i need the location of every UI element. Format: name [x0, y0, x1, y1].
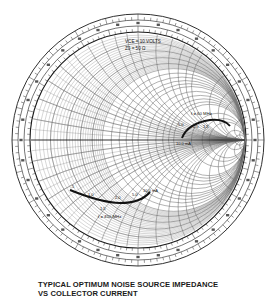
f450-2-label: 2.0: [115, 195, 121, 200]
f60-10ma-label: 10.0 mA: [176, 141, 191, 146]
f60-2-label: 2.0: [193, 124, 199, 129]
caption-line-2: VS COLLECTOR CURRENT: [38, 289, 278, 298]
f450-15-label: 1.5: [100, 206, 106, 211]
f450-label: f = 450 MHz: [98, 214, 121, 219]
f450-05-label: .5: [71, 184, 75, 189]
f60-15-label: 1.5: [203, 124, 209, 129]
caption-line-1: TYPICAL OPTIMUM NOISE SOURCE IMPEDANCE: [38, 280, 278, 289]
f450-5-label: 5.0: [132, 192, 138, 197]
chart-caption: TYPICAL OPTIMUM NOISE SOURCE IMPEDANCE V…: [38, 280, 278, 298]
f60-5-label: 5.0: [178, 122, 184, 127]
f60-label: f = 60 MHz: [191, 111, 212, 116]
vce-label: VCE = 10 VOLTS: [125, 39, 161, 44]
z0-label: Z0 = 50 Ω: [125, 46, 146, 51]
smith-chart: VCE = 10 VOLTS Z0 = 50 Ω f = 60 MHz 10.0…: [0, 0, 278, 272]
f450-1-label: 1.0: [88, 192, 94, 197]
f450-10ma-label: 10.0 mA: [143, 188, 158, 193]
